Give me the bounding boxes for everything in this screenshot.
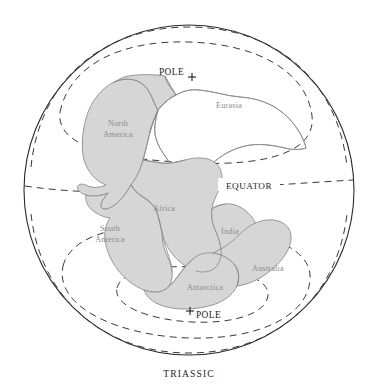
- label-india: India: [221, 227, 239, 236]
- equator-label-group: EQUATOR: [218, 178, 280, 191]
- label-south-america-line1: South: [100, 224, 120, 233]
- figure-caption: TRIASSIC: [163, 368, 214, 379]
- pangaea-landmass-group: [77, 75, 306, 309]
- label-africa: Africa: [153, 204, 175, 213]
- label-north-america-line2: America: [103, 130, 133, 139]
- north-pole-cross-icon: [188, 73, 196, 81]
- landmass-eurasia: [150, 76, 306, 176]
- northern-latitude-band-dashed: [31, 27, 347, 167]
- triassic-pangaea-map: North America Eurasia Africa South Ameri…: [0, 0, 378, 392]
- equator-label: EQUATOR: [226, 181, 273, 191]
- north-pole-label: POLE: [159, 67, 184, 77]
- south-pole-label: POLE: [196, 310, 221, 320]
- label-south-america-line2: America: [95, 235, 125, 244]
- label-australia: Australia: [252, 264, 284, 273]
- label-eurasia: Eurasia: [216, 101, 242, 110]
- label-north-america-line1: North: [108, 119, 128, 128]
- label-antarctica: Antarctica: [187, 283, 223, 292]
- paleogeographic-map-figure: North America Eurasia Africa South Ameri…: [0, 0, 378, 392]
